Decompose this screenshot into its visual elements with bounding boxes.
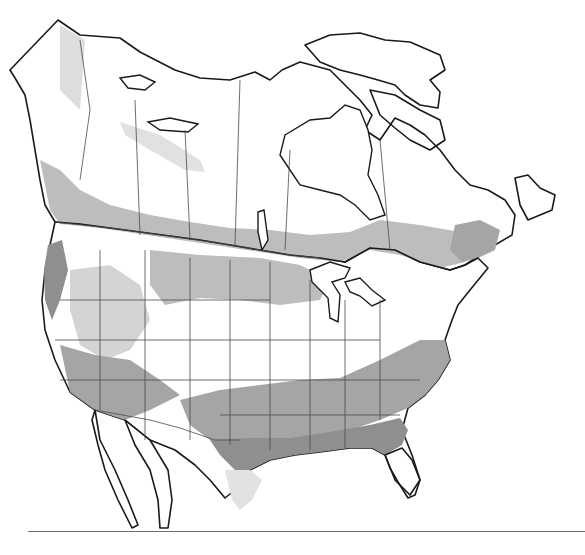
great-bear-lake — [120, 75, 155, 90]
zone-band-northwest — [60, 25, 85, 110]
zone-band-maritimes — [450, 220, 500, 262]
baja-california — [92, 410, 138, 528]
zone-southern-band — [180, 340, 450, 445]
north-america-map — [0, 0, 585, 555]
zone-great-basin-mottle — [70, 265, 150, 360]
newfoundland — [515, 175, 555, 220]
great-slave-lake — [148, 118, 198, 132]
zone-florida — [385, 448, 420, 498]
baffin-island — [370, 90, 445, 150]
zone-texas-south — [225, 470, 262, 510]
bottom-rule — [28, 531, 585, 532]
zone-pacific-northwest — [44, 240, 68, 320]
lake-huron-erie — [345, 278, 385, 306]
arctic-islands — [305, 33, 445, 108]
zone-southwest-dark — [60, 345, 180, 420]
